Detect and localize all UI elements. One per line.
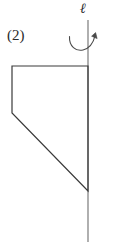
figure-container: (2) ℓ — [0, 0, 119, 247]
axis-label: ℓ — [80, 2, 86, 16]
trapezoid-region-outline — [12, 66, 88, 191]
part-number-label: (2) — [7, 28, 25, 43]
rotation-arrowhead-icon — [92, 33, 98, 39]
rotation-arrow-arc — [69, 35, 95, 50]
rotation-arrow-group — [69, 33, 97, 51]
